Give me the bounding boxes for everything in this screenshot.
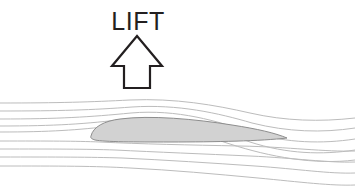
- lift-label: LIFT: [111, 7, 164, 35]
- lift-diagram: LIFT: [0, 0, 355, 186]
- diagram-canvas: LIFT: [0, 0, 355, 186]
- diagram-background: [0, 0, 355, 186]
